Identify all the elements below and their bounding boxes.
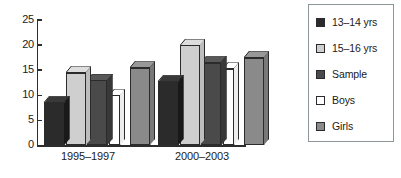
bar-front-face: [158, 82, 178, 146]
y-axis-tick-label-text: 10: [4, 89, 34, 100]
y-axis-tick-mark: [37, 19, 42, 20]
bar-side-face: [234, 62, 240, 145]
legend-item-label: Girls: [332, 121, 353, 132]
legend: 13–14 yrs15–16 yrsSampleBoysGirls: [308, 4, 394, 142]
x-axis-line: [37, 145, 246, 146]
y-axis-tick-label: 10: [0, 89, 34, 100]
bar-front-face: [244, 58, 264, 146]
y-axis-tick-mark: [37, 44, 42, 45]
legend-item-4[interactable]: Boys: [316, 94, 355, 106]
y-axis-tick-label-text: 0: [4, 139, 34, 150]
bar-side-face: [107, 74, 113, 146]
y-axis-tick-label-text: 25: [4, 14, 34, 25]
bar-side-face: [86, 66, 92, 145]
bar-5-group-1: [130, 68, 150, 146]
bar-side-face: [200, 39, 206, 146]
legend-swatch-icon: [316, 18, 325, 27]
legend-item-label: Boys: [332, 95, 355, 106]
legend-item-5[interactable]: Girls: [316, 120, 353, 132]
y-axis-tick-label-text: 15: [4, 64, 34, 75]
bar-side-face: [178, 75, 184, 145]
bar-side-face: [221, 56, 227, 145]
y-axis-tick-mark: [37, 69, 42, 70]
y-axis-tick-label-text: 5: [4, 114, 34, 125]
legend-swatch-icon: [316, 44, 325, 53]
legend-item-3[interactable]: Sample: [316, 68, 367, 80]
legend-swatch-icon: [316, 70, 325, 79]
bar-side-face: [64, 96, 70, 145]
y-axis-tick-label: 5: [0, 114, 34, 125]
plot-area: 0510152025 1995–19972000–2003: [0, 0, 290, 160]
bar-front-face: [44, 103, 64, 146]
legend-item-label: 13–14 yrs: [332, 17, 377, 28]
y-axis-tick-label: 25: [0, 14, 34, 25]
y-axis-tick-label: 20: [0, 39, 34, 50]
legend-item-1[interactable]: 13–14 yrs: [316, 16, 377, 28]
y-axis-tick-mark: [37, 95, 42, 96]
x-axis-group-label: 2000–2003: [157, 150, 247, 162]
legend-swatch-icon: [316, 96, 325, 105]
legend-item-label: Sample: [332, 69, 367, 80]
y-axis-tick-label: 15: [0, 64, 34, 75]
bar-chart-figure: 0510152025 1995–19972000–2003 13–14 yrs1…: [0, 0, 401, 178]
bar-1-group-1: [44, 103, 64, 146]
y-axis-tick-label-text: 20: [4, 39, 34, 50]
x-axis-group-label: 1995–1997: [43, 150, 133, 162]
bar-side-face: [120, 89, 126, 146]
y-axis-tick-mark: [37, 145, 42, 146]
y-axis-line: [37, 20, 38, 146]
legend-swatch-icon: [316, 122, 325, 131]
bar-5-group-2: [244, 58, 264, 146]
legend-item-label: 15–16 yrs: [332, 43, 377, 54]
bar-1-group-2: [158, 82, 178, 146]
bar-side-face: [150, 61, 156, 145]
bar-side-face: [264, 51, 270, 145]
y-axis-tick-mark: [37, 120, 42, 121]
legend-item-2[interactable]: 15–16 yrs: [316, 42, 377, 54]
bar-front-face: [130, 68, 150, 146]
y-axis-tick-label: 0: [0, 139, 34, 150]
